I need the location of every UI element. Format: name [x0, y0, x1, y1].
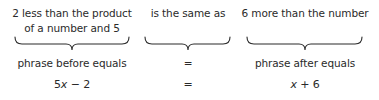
label-phrase-before-equals: phrase before equals	[17, 57, 126, 69]
underbrace-icon	[247, 37, 362, 50]
expression-rest: + 6	[297, 78, 320, 91]
expression-rest: − 2	[67, 78, 90, 91]
underbrace-icon	[15, 37, 129, 50]
coefficient: 5	[54, 78, 61, 91]
equals-sign: =	[183, 78, 192, 91]
label-phrase-after-equals: phrase after equals	[255, 57, 355, 69]
label-equals: =	[184, 57, 193, 69]
expression-right: x + 6	[290, 79, 319, 91]
expression-equals: =	[183, 79, 192, 91]
expression-left: 5x − 2	[54, 79, 90, 91]
underbrace-icon	[145, 37, 230, 50]
